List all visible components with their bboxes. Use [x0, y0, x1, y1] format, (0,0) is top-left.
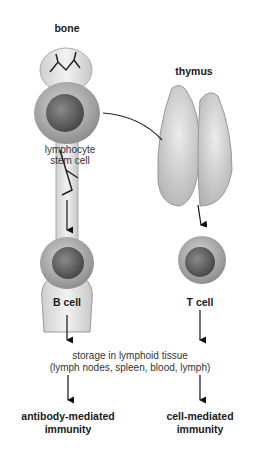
arrow-thymus-to-tcell — [198, 205, 201, 225]
label-stem-cell: lymphocyte stem cell — [35, 144, 105, 166]
b-cell-illustration — [40, 237, 94, 289]
stem-to-thymus-curve — [103, 113, 162, 140]
label-antibody-line2: immunity — [8, 423, 128, 436]
label-bone: bone — [50, 22, 84, 34]
label-storage-line1: storage in lymphoid tissue — [20, 350, 240, 362]
lymphocyte-stem-cell — [34, 82, 100, 144]
label-stem-cell-line1: lymphocyte — [35, 144, 105, 155]
label-antibody-mediated-immunity: antibody-mediated immunity — [8, 410, 128, 436]
label-antibody-line1: antibody-mediated — [8, 410, 128, 423]
thymus-illustration — [158, 85, 232, 206]
label-stem-cell-line2: stem cell — [35, 155, 105, 166]
label-storage: storage in lymphoid tissue (lymph nodes,… — [20, 350, 240, 374]
label-storage-line2: (lymph nodes, spleen, blood, lymph) — [20, 362, 240, 374]
label-thymus: thymus — [170, 65, 218, 77]
label-t-cell: T cell — [178, 296, 222, 308]
label-b-cell: B cell — [45, 296, 89, 308]
label-cellmediated-line2: immunity — [150, 423, 250, 436]
label-cellmediated-line1: cell-mediated — [150, 410, 250, 423]
t-cell-illustration — [178, 236, 226, 284]
label-cell-mediated-immunity: cell-mediated immunity — [150, 410, 250, 436]
